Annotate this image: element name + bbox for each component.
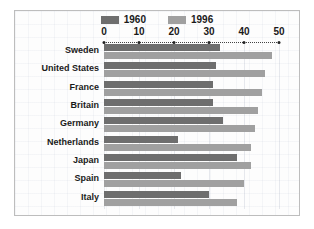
category-label: Germany <box>60 119 99 128</box>
category-label: United States <box>41 64 99 73</box>
bar-group: Netherlands <box>104 136 279 154</box>
x-axis-rule <box>104 42 279 43</box>
plot-area: 01020304050 SwedenUnited StatesFranceBri… <box>15 11 299 215</box>
bar-group: United States <box>104 62 279 80</box>
bar-group: France <box>104 81 279 99</box>
bars-area: SwedenUnited StatesFranceBritainGermanyN… <box>104 44 279 209</box>
bar-group: Britain <box>104 99 279 117</box>
bar-1960 <box>104 81 213 88</box>
bar-1960 <box>104 117 223 124</box>
bar-1960 <box>104 44 220 51</box>
category-label: Japan <box>73 156 99 165</box>
bar-group: Spain <box>104 172 279 190</box>
bar-rows: SwedenUnited StatesFranceBritainGermanyN… <box>104 44 279 209</box>
bar-1960 <box>104 172 181 179</box>
bar-1960 <box>104 191 209 198</box>
category-label: Spain <box>74 174 99 183</box>
bar-group: Germany <box>104 117 279 135</box>
x-axis-tick-label: 30 <box>203 27 214 37</box>
x-axis-tick-label: 50 <box>273 27 284 37</box>
x-axis-tick-label: 20 <box>168 27 179 37</box>
bar-1996 <box>104 125 255 132</box>
bar-1996 <box>104 199 237 206</box>
category-label: Netherlands <box>47 138 99 147</box>
bar-group: Italy <box>104 191 279 209</box>
x-axis-tick-label: 0 <box>101 27 107 37</box>
bar-1996 <box>104 70 265 77</box>
chart-container: 19601996 01020304050 SwedenUnited States… <box>14 10 300 216</box>
bar-1996 <box>104 89 262 96</box>
category-label: France <box>69 83 99 92</box>
category-label: Britain <box>70 101 99 110</box>
bar-1960 <box>104 99 213 106</box>
gridline <box>279 44 280 209</box>
bar-1960 <box>104 154 237 161</box>
bar-1960 <box>104 62 216 69</box>
bar-1996 <box>104 52 272 59</box>
bar-1960 <box>104 136 178 143</box>
bar-1996 <box>104 144 251 151</box>
x-axis-tick-labels: 01020304050 <box>104 27 279 41</box>
bar-1996 <box>104 107 258 114</box>
x-axis-tick-label: 40 <box>238 27 249 37</box>
bar-group: Japan <box>104 154 279 172</box>
category-label: Sweden <box>65 46 99 55</box>
x-axis-tick-label: 10 <box>133 27 144 37</box>
category-label: Italy <box>81 193 99 202</box>
bar-1996 <box>104 162 251 169</box>
bar-group: Sweden <box>104 44 279 62</box>
bar-1996 <box>104 180 244 187</box>
